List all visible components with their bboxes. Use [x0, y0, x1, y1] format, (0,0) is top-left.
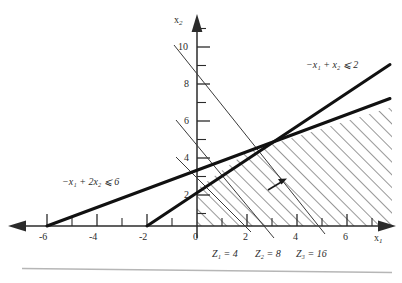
plot-svg: [0, 0, 402, 283]
constraint-label-c1: −x₁ + x₂ ⩽ 2: [306, 60, 358, 70]
constraint-label-c2: −x₁ + 2x₂ ⩽ 6: [62, 177, 119, 187]
x-tick-label-6: 6: [343, 232, 348, 242]
figure-canvas: x2 x1 -6 -4 -2 0 2 4 6 2 4 6 8 10 −x₁ + …: [0, 0, 402, 283]
y-tick-label-2: 2: [184, 190, 189, 200]
x-tick-label--6: -6: [39, 232, 47, 242]
x-axis-label: x1: [374, 233, 383, 245]
y-axis-major-ticks: [197, 47, 210, 195]
x-axis-left-arrow: [8, 221, 26, 232]
x-tick-label--4: -4: [89, 232, 97, 242]
objective-label-z1: Z₁ = 4: [212, 249, 238, 259]
y-tick-label-10: 10: [178, 42, 188, 52]
x-tick-label-4: 4: [293, 232, 298, 242]
x-tick-label-2: 2: [243, 232, 248, 242]
y-tick-label-8: 8: [184, 79, 189, 89]
x-tick-label-0: 0: [193, 232, 198, 242]
footer-rule: [22, 269, 392, 273]
y-tick-label-6: 6: [184, 116, 189, 126]
objective-label-z3: Z₃ = 16: [296, 249, 327, 259]
objective-label-z2: Z₂ = 8: [255, 249, 281, 259]
y-axis-up-arrow: [192, 14, 203, 32]
x-tick-label--2: -2: [139, 232, 147, 242]
y-tick-label-4: 4: [184, 153, 189, 163]
y-axis-label: x2: [174, 15, 183, 27]
feasible-region: [197, 107, 392, 226]
